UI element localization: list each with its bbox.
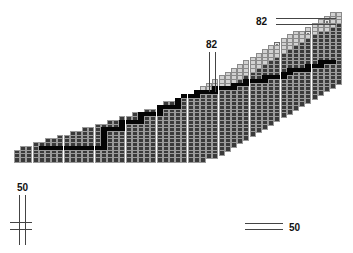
guide-line [209, 52, 210, 92]
lattice-cell [95, 157, 101, 163]
lattice-cell [51, 157, 57, 163]
lattice-cell [231, 142, 237, 148]
lattice-cell [45, 157, 51, 163]
lattice-cell [33, 157, 39, 163]
lattice-cell [150, 157, 156, 163]
lattice-cell [268, 120, 274, 126]
lattice-cell [281, 112, 287, 118]
lattice-cell [175, 157, 181, 163]
lattice-cell [243, 135, 249, 141]
guide-line [276, 24, 336, 25]
lattice-cell [107, 157, 113, 163]
lattice-cell [287, 109, 293, 115]
guide-line [25, 195, 26, 245]
lattice-cell [212, 153, 218, 159]
lattice-cell [70, 157, 76, 163]
lattice-cell [188, 157, 194, 163]
lattice-cell [26, 157, 32, 163]
lattice-cell [57, 157, 63, 163]
label-82-mid: 82 [206, 39, 217, 50]
lattice-cell [194, 157, 200, 163]
lattice-cell [250, 131, 256, 137]
lattice-cell [318, 90, 324, 96]
lattice-cell [237, 138, 243, 144]
lattice-cell [101, 157, 107, 163]
lattice-cell [305, 98, 311, 104]
guide-line [245, 223, 283, 224]
label-82-top: 82 [256, 16, 267, 27]
lattice-cell [144, 157, 150, 163]
lattice-cell [64, 157, 70, 163]
lattice-cell [181, 157, 187, 163]
guide-line [276, 18, 336, 19]
lattice-cell [138, 157, 144, 163]
guide-line [19, 195, 20, 245]
lattice-cell [293, 105, 299, 111]
label-50-right: 50 [289, 222, 300, 233]
lattice-cell [157, 157, 163, 163]
lattice-cell [163, 157, 169, 163]
lattice-cell [274, 116, 280, 122]
lattice-cell [14, 157, 20, 163]
lattice-cell [225, 146, 231, 152]
guide-line [10, 229, 32, 230]
lattice-cell [119, 157, 125, 163]
lattice-cell [88, 157, 94, 163]
guide-line [215, 52, 216, 92]
guide-line [245, 229, 283, 230]
lattice-cell [169, 157, 175, 163]
lattice-cell [76, 157, 82, 163]
lattice-cell [132, 157, 138, 163]
lattice-cell [126, 157, 132, 163]
lattice-cell [113, 157, 119, 163]
lattice-diagram: 82825050 [0, 0, 353, 253]
lattice-cell [200, 157, 206, 163]
lattice-cell [20, 157, 26, 163]
lattice-cell [82, 157, 88, 163]
label-50-left: 50 [17, 182, 28, 193]
lattice-cell [330, 83, 336, 89]
lattice-cell [262, 124, 268, 130]
lattice-cell [336, 79, 342, 85]
lattice-cell [299, 101, 305, 107]
guide-line [10, 222, 32, 223]
lattice-cell [219, 150, 225, 156]
lattice-cell [312, 94, 318, 100]
lattice-cell [39, 157, 45, 163]
lattice-cell [206, 153, 212, 159]
lattice-cell [256, 127, 262, 133]
lattice-cell [324, 86, 330, 92]
